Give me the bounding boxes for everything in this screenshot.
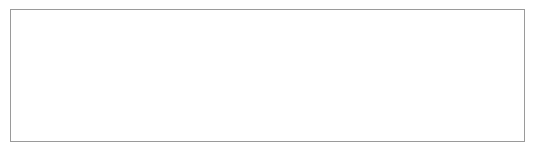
chart-svg: [0, 0, 533, 149]
